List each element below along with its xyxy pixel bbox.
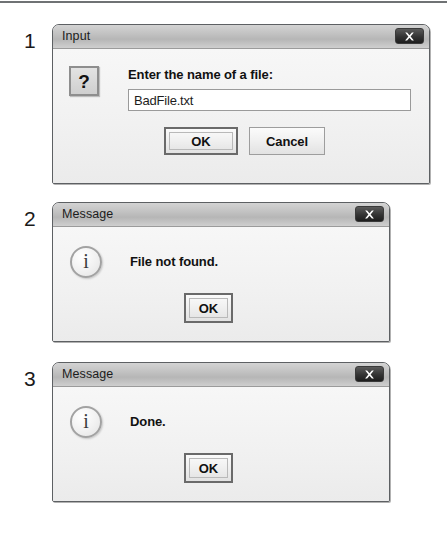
top-divider-rule [0,1,447,3]
close-icon[interactable] [395,28,424,44]
question-mark-glyph: ? [78,72,90,91]
step-number-2: 2 [24,208,36,229]
ok-button[interactable]: OK [184,453,233,483]
info-icon-glyph: i [83,411,89,431]
message-dialog-title: Message [62,367,113,381]
message-dialog-body: i Done. OK [53,387,389,502]
ok-button-label: OK [191,134,210,149]
input-dialog-body: ? Enter the name of a file: OK Cancel [53,49,429,184]
step-number-1: 1 [24,30,36,51]
step-number-3: 3 [24,368,36,389]
input-prompt-label: Enter the name of a file: [128,67,273,82]
message-dialog-title: Message [62,207,113,221]
ok-button-label: OK [199,461,218,476]
message-dialog-titlebar[interactable]: Message [53,203,389,227]
close-icon[interactable] [355,366,384,382]
cancel-button-label: Cancel [266,134,308,149]
input-dialog: Input ? Enter the name of a file: OK Can… [52,24,430,184]
info-icon: i [70,246,102,278]
message-text: File not found. [130,254,218,269]
ok-button-label: OK [199,301,218,316]
message-text: Done. [130,414,166,429]
ok-button[interactable]: OK [184,293,233,323]
message-dialog-done: Message i Done. OK [52,362,390,502]
question-mark-icon: ? [69,66,99,96]
message-dialog-file-not-found: Message i File not found. OK [52,202,390,342]
message-dialog-body: i File not found. OK [53,227,389,342]
input-dialog-title: Input [62,29,90,43]
cancel-button[interactable]: Cancel [249,127,325,155]
info-icon-glyph: i [83,251,89,271]
close-icon[interactable] [355,206,384,222]
info-icon: i [70,406,102,438]
filename-input[interactable] [128,89,411,111]
input-dialog-titlebar[interactable]: Input [53,25,429,49]
ok-button[interactable]: OK [164,127,238,155]
message-dialog-titlebar[interactable]: Message [53,363,389,387]
